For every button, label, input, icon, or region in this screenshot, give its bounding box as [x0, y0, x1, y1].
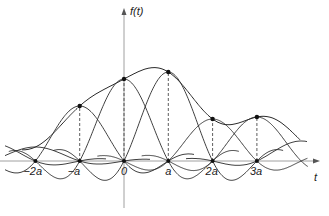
y-axis-arrow-icon: [122, 8, 127, 15]
sinc-pulse-curve: [5, 146, 106, 165]
zero-crossing-point: [166, 159, 170, 163]
sample-point: [122, 77, 126, 81]
tick-label: 0: [121, 165, 128, 177]
x-axis-label: t: [314, 171, 318, 183]
sample-point: [166, 70, 170, 74]
zero-crossing-point: [211, 159, 215, 163]
tick-label: −a: [68, 165, 81, 177]
axes: [0, 8, 320, 208]
zero-crossing-point: [122, 159, 126, 163]
tick-label: a: [165, 165, 171, 177]
sample-points: [33, 70, 259, 163]
sample-point: [210, 117, 214, 121]
zero-crossing-point: [255, 159, 259, 163]
tick-label: −2a: [23, 165, 42, 177]
sampling-reconstruction-diagram: f(t) t −2a−a0a2a3a: [0, 0, 329, 216]
zero-crossing-point: [33, 159, 37, 163]
sinc-pulse-curve: [97, 119, 307, 170]
sample-point: [78, 104, 82, 108]
y-axis-label: f(t): [130, 5, 144, 17]
sinc-pulse-curve: [186, 141, 307, 165]
reconstructed-envelope: [22, 68, 300, 150]
zero-crossing-point: [78, 159, 82, 163]
sinc-curves: [5, 72, 308, 180]
sample-point: [255, 115, 259, 119]
x-axis-arrow-icon: [313, 159, 320, 164]
reconstructed-signal-curve: [22, 68, 300, 150]
tick-label: 3a: [250, 165, 262, 177]
tick-label: 2a: [205, 165, 218, 177]
